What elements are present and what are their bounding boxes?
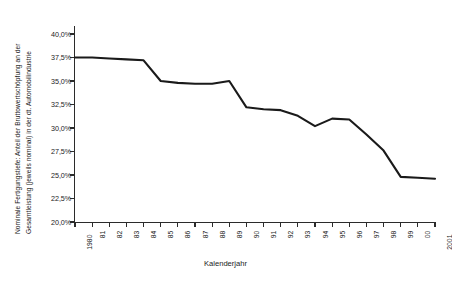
x-axis-tick-labels: 1980818283848586878889909192939495969798…	[75, 227, 440, 257]
x-axis-tick-label: 88	[219, 231, 226, 239]
x-axis-tick-label: 81	[99, 231, 106, 239]
y-axis-tick-label: 40,0%	[33, 30, 71, 39]
y-axis-tick-label: 22,5%	[33, 194, 71, 203]
x-axis-tick-label: 96	[356, 231, 363, 239]
x-axis-tick-label: 90	[253, 231, 260, 239]
x-axis-tick-label: 85	[167, 231, 174, 239]
x-axis-title: Kalenderjahr	[0, 259, 451, 268]
x-axis-tick-label: 87	[201, 231, 208, 239]
y-axis-tick-label: 25,0%	[33, 171, 71, 180]
plot-area	[75, 34, 435, 222]
x-axis-tick-label: 94	[321, 231, 328, 239]
x-axis-tick-label: 2001	[445, 235, 452, 250]
x-axis-tick-label: 82	[116, 231, 123, 239]
x-axis-tick-label: 86	[184, 231, 191, 239]
x-axis-tick-label: 83	[133, 231, 140, 239]
y-axis-tick-label: 32,5%	[33, 100, 71, 109]
x-axis-tick-label: 1980	[85, 235, 92, 250]
x-axis-tick-label: 84	[150, 231, 157, 239]
x-axis-tick-label: 99	[407, 231, 414, 239]
x-axis-tick-label: 98	[390, 231, 397, 239]
series-line-nominale-fertigungstiefe	[75, 34, 437, 230]
y-axis-tick-label: 20,0%	[33, 218, 71, 227]
y-axis-tick-label: 37,5%	[33, 53, 71, 62]
y-axis-tick-labels: 40,0%37,5%35,0%32,5%30,0%27,5%25,0%22,5%…	[0, 0, 71, 260]
x-axis-tick-label: 91	[270, 231, 277, 239]
x-axis-tick-label: 00	[424, 231, 431, 239]
x-axis-tick-label: 95	[339, 231, 346, 239]
y-axis-tick-label: 30,0%	[33, 124, 71, 133]
x-axis-tick-label: 93	[304, 231, 311, 239]
y-axis-tick-label: 27,5%	[33, 147, 71, 156]
x-axis-tick-label: 89	[236, 231, 243, 239]
x-axis-tick-label: 97	[373, 231, 380, 239]
y-axis-tick-label: 35,0%	[33, 77, 71, 86]
x-axis-tick-label: 92	[287, 231, 294, 239]
